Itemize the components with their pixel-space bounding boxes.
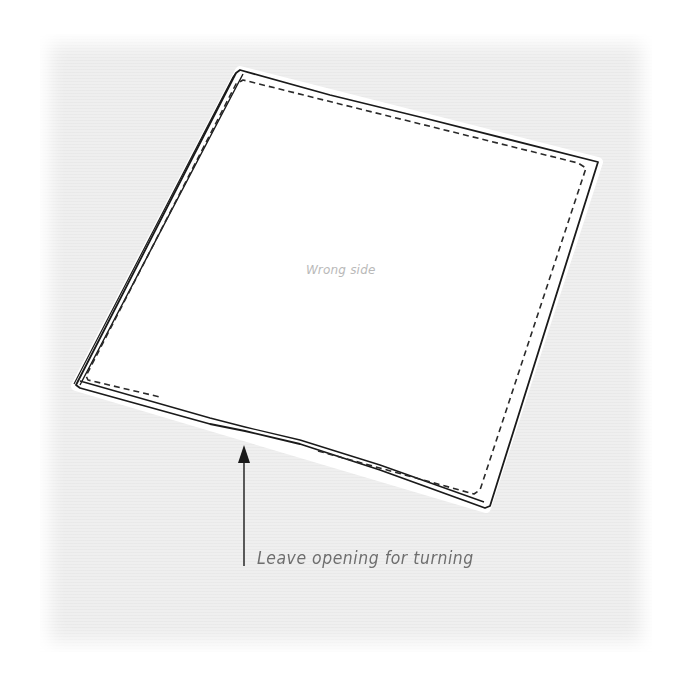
arrow-head-icon	[238, 445, 250, 463]
illustration-canvas: Wrong side Leave opening for turning	[0, 0, 686, 684]
fabric-square	[76, 71, 598, 508]
center-label: Wrong side	[306, 263, 376, 277]
callout-label: Leave opening for turning	[257, 548, 474, 568]
fabric-drawing	[0, 0, 686, 684]
